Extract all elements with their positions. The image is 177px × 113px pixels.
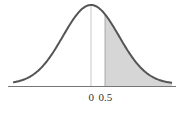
normal-curve-chart: 0 0.5 — [0, 0, 177, 113]
shaded-tail-area — [105, 14, 172, 86]
tick-label-0.5: 0.5 — [99, 91, 113, 103]
bell-curve — [13, 5, 172, 83]
tick-label-0: 0 — [89, 91, 95, 103]
